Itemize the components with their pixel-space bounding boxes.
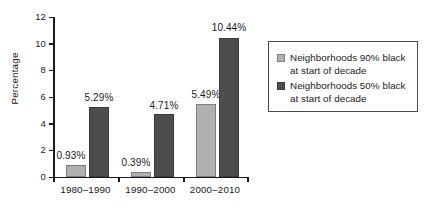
y-tick-label-6-wrap: 6 xyxy=(26,91,46,103)
y-tick-label-12: 12 xyxy=(26,11,46,22)
y-tick-label-4-wrap: 4 xyxy=(26,118,46,130)
bar-2000-2010-series-50pct xyxy=(219,38,239,177)
bar-label-1980-1990-series-50pct: 5.29% xyxy=(69,92,129,103)
bar-2000-2010-series-90pct xyxy=(196,104,216,177)
legend-item-neighborhoods-90-percent[interactable]: Neighborhoods 90% black at start of deca… xyxy=(277,51,415,77)
x-tick-boundary-1 xyxy=(118,177,120,182)
bar-1980-1990-series-90pct xyxy=(66,165,86,177)
x-tick-boundary-3 xyxy=(247,177,249,182)
y-tick-label-12-wrap: 12 xyxy=(26,11,46,23)
legend-label-neighborhoods-50-percent: Neighborhoods 50% black at start of deca… xyxy=(290,79,406,105)
y-tick-label-0-wrap: 0 xyxy=(26,171,46,183)
bar-1990-2000-series-90pct xyxy=(131,172,151,177)
y-tick-label-8: 8 xyxy=(26,64,46,75)
bar-1990-2000-series-50pct xyxy=(154,114,174,177)
legend-item-neighborhoods-50-percent[interactable]: Neighborhoods 50% black at start of deca… xyxy=(277,79,415,105)
x-tick-boundary-2 xyxy=(183,177,185,182)
y-axis-title: Percentage xyxy=(9,39,20,119)
legend-label-line2: at start of decade xyxy=(290,93,367,104)
legend-label-line2: at start of decade xyxy=(290,65,367,76)
legend-label-line1: Neighborhoods 90% black xyxy=(290,52,406,63)
bar-label-1990-2000-series-50pct: 4.71% xyxy=(134,100,194,111)
legend-label-neighborhoods-90-percent: Neighborhoods 90% black at start of deca… xyxy=(290,51,406,77)
x-tick-boundary-0 xyxy=(53,177,55,182)
x-tick-label-2000-2010: 2000–2010 xyxy=(170,184,260,195)
y-tick-label-0: 0 xyxy=(26,171,46,182)
y-tick-6 xyxy=(49,97,53,99)
y-tick-10 xyxy=(49,43,53,45)
y-tick-8 xyxy=(49,70,53,72)
y-tick-12 xyxy=(49,17,53,19)
chart-page: Percentage 0 2 4 6 8 10 12 xyxy=(0,0,430,212)
chart-legend: Neighborhoods 90% black at start of deca… xyxy=(268,41,418,112)
y-tick-label-10-wrap: 10 xyxy=(26,38,46,50)
legend-swatch-dark-gray-icon xyxy=(277,82,285,90)
y-tick-4 xyxy=(49,123,53,125)
legend-swatch-light-gray-icon xyxy=(277,54,285,62)
y-tick-label-4: 4 xyxy=(26,118,46,129)
y-tick-label-6: 6 xyxy=(26,91,46,102)
legend-label-line1: Neighborhoods 50% black xyxy=(290,80,406,91)
bar-label-2000-2010-series-50pct: 10.44% xyxy=(199,22,259,33)
y-tick-label-10: 10 xyxy=(26,38,46,49)
y-tick-label-8-wrap: 8 xyxy=(26,64,46,76)
